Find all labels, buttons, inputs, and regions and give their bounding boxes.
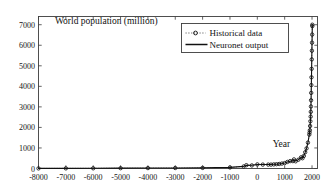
x-tick-label: 2000 bbox=[304, 173, 320, 182]
x-tick-label: -5000 bbox=[111, 173, 130, 182]
x-tick-label: 0 bbox=[255, 173, 259, 182]
x-axis-label-annotation: Year bbox=[273, 139, 291, 149]
x-tick-label: -2000 bbox=[193, 173, 212, 182]
y-tick-label: 0 bbox=[31, 165, 35, 174]
x-tick-label: -7000 bbox=[57, 173, 76, 182]
x-tick-label: -3000 bbox=[166, 173, 185, 182]
population-line-chart: -8000-7000-6000-5000-4000-3000-2000-1000… bbox=[0, 0, 332, 192]
x-tick-label: -8000 bbox=[29, 173, 48, 182]
x-axis-tick-labels: -8000-7000-6000-5000-4000-3000-2000-1000… bbox=[29, 173, 320, 182]
y-tick-label: 2000 bbox=[19, 123, 35, 132]
x-tick-label: -1000 bbox=[221, 173, 240, 182]
y-tick-label: 4000 bbox=[19, 82, 35, 91]
y-tick-label: 1000 bbox=[19, 144, 35, 153]
x-tick-label: -4000 bbox=[139, 173, 158, 182]
figure-container: -8000-7000-6000-5000-4000-3000-2000-1000… bbox=[0, 0, 332, 192]
chart-legend: Historical dataNeuronet output bbox=[182, 24, 289, 53]
y-tick-label: 3000 bbox=[19, 103, 35, 112]
x-tick-label: -6000 bbox=[84, 173, 103, 182]
x-tick-label: 1000 bbox=[277, 173, 293, 182]
legend-label-neuronet-output: Neuronet output bbox=[210, 40, 269, 50]
legend-label-historical-data: Historical data bbox=[210, 28, 263, 38]
y-tick-label: 7000 bbox=[19, 21, 35, 30]
y-tick-label: 6000 bbox=[19, 41, 35, 50]
chart-title-annotation: World population (million) bbox=[55, 16, 158, 27]
y-tick-label: 5000 bbox=[19, 62, 35, 71]
